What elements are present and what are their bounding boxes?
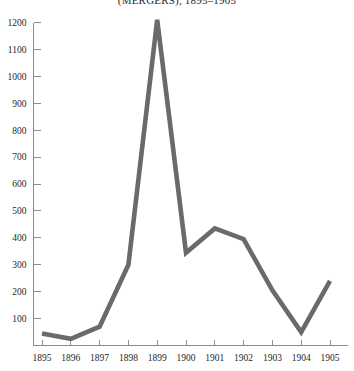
x-tick-label: 1904 <box>292 353 311 363</box>
x-tick-label: 1898 <box>119 353 138 363</box>
y-tick-label: 800 <box>12 126 27 136</box>
line-chart-plot: 100200300400500600700800900100011001200 … <box>0 0 354 371</box>
y-axis-tick-labels: 100200300400500600700800900100011001200 <box>8 18 27 324</box>
x-tick-label: 1902 <box>234 353 253 363</box>
y-tick-label: 700 <box>12 152 27 162</box>
y-axis-tick-marks <box>34 23 41 319</box>
x-tick-label: 1897 <box>90 353 109 363</box>
y-tick-label: 200 <box>12 287 27 297</box>
chart-container: (MERGERS), 1895–1905 1002003004005006007… <box>0 0 354 371</box>
y-tick-label: 400 <box>12 233 27 243</box>
x-axis-tick-marks <box>42 340 330 346</box>
y-tick-label: 900 <box>12 99 27 109</box>
x-tick-label: 1901 <box>205 353 224 363</box>
x-tick-label: 1905 <box>321 353 340 363</box>
y-tick-label: 1000 <box>8 72 27 82</box>
y-tick-label: 1200 <box>8 18 27 28</box>
data-series-line <box>42 20 330 339</box>
x-tick-label: 1895 <box>33 353 52 363</box>
y-tick-label: 100 <box>12 314 27 324</box>
x-axis-tick-labels: 1895189618971898189919001901190219031904… <box>33 353 340 363</box>
x-tick-label: 1903 <box>263 353 282 363</box>
y-tick-label: 500 <box>12 206 27 216</box>
x-tick-label: 1896 <box>61 353 80 363</box>
y-tick-label: 1100 <box>8 45 27 55</box>
x-tick-label: 1899 <box>148 353 167 363</box>
y-tick-label: 600 <box>12 179 27 189</box>
y-tick-label: 300 <box>12 260 27 270</box>
x-tick-label: 1900 <box>177 353 196 363</box>
